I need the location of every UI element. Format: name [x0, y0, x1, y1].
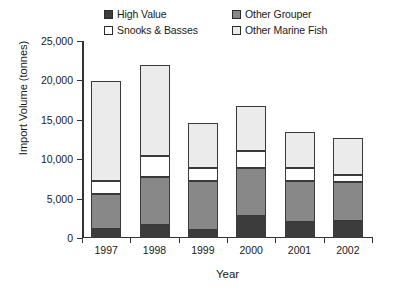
x-tick-label: 1997: [82, 244, 130, 256]
bar-segment: [140, 225, 170, 238]
bar-stack: [333, 41, 363, 238]
y-axis-title: Import Volume (tonnes): [17, 13, 29, 183]
y-tick-mark: [77, 159, 82, 160]
x-tick-label: 2001: [276, 244, 324, 256]
bar-segment: [140, 156, 170, 177]
x-axis-title: Year: [82, 268, 373, 280]
bar-segment: [285, 168, 315, 181]
y-tick-label: 5,000: [17, 194, 73, 204]
legend-swatch-high-value: [104, 10, 113, 19]
x-tick-mark: [130, 238, 131, 243]
bar-segment: [236, 106, 266, 152]
legend-item-high-value: High Value: [104, 8, 232, 20]
plot-area: 05,00010,00015,00020,00025,000 199719981…: [82, 41, 372, 238]
bar-stack: [91, 41, 121, 238]
bar-segment: [91, 194, 121, 230]
bar-stack: [236, 41, 266, 238]
legend-item-other-grouper: Other Grouper: [232, 8, 372, 20]
bar-segment: [236, 216, 266, 238]
x-tick-mark: [324, 238, 325, 243]
bar-segment: [188, 230, 218, 238]
legend-label-snooks-basses: Snooks & Basses: [117, 24, 198, 36]
x-tick-mark: [227, 238, 228, 243]
bar-segment: [285, 181, 315, 222]
x-tick-mark: [179, 238, 180, 243]
bar-segment: [333, 182, 363, 221]
y-tick-mark: [77, 199, 82, 200]
bar-segment: [236, 151, 266, 168]
chart-container: High Value Other Grouper Snooks & Basses…: [0, 0, 402, 300]
x-tick-mark: [372, 238, 373, 243]
bar-segment: [91, 229, 121, 238]
legend-label-other-marine-fish: Other Marine Fish: [245, 24, 327, 36]
bar-stack: [140, 41, 170, 238]
x-tick-label: 1999: [179, 244, 227, 256]
legend-item-other-marine-fish: Other Marine Fish: [232, 24, 372, 36]
bar-segment: [140, 177, 170, 225]
bar-stack: [188, 41, 218, 238]
bar-segment: [285, 132, 315, 168]
x-tick-mark-origin: [82, 238, 83, 243]
bar-segment: [140, 65, 170, 156]
legend-swatch-other-grouper: [232, 10, 241, 19]
bar-segment: [188, 123, 218, 168]
y-tick-mark: [77, 120, 82, 121]
bar-segment: [91, 181, 121, 194]
bar-segment: [236, 168, 266, 216]
bar-segment: [333, 221, 363, 238]
legend-swatch-other-marine-fish: [232, 26, 241, 35]
y-tick-mark: [77, 80, 82, 81]
y-tick-label: 0: [17, 233, 73, 243]
legend-label-high-value: High Value: [117, 8, 167, 20]
legend-label-other-grouper: Other Grouper: [245, 8, 311, 20]
chart-legend: High Value Other Grouper Snooks & Basses…: [104, 6, 372, 38]
y-tick-mark: [77, 41, 82, 42]
legend-item-snooks-basses: Snooks & Basses: [104, 24, 232, 36]
x-tick-label: 2002: [324, 244, 372, 256]
bar-stack: [285, 41, 315, 238]
bar-segment: [188, 168, 218, 181]
bar-segment: [285, 222, 315, 238]
bar-segment: [333, 138, 363, 175]
bar-segment: [91, 81, 121, 181]
x-tick-label: 2000: [227, 244, 275, 256]
bar-segment: [333, 175, 363, 182]
legend-swatch-snooks-basses: [104, 26, 113, 35]
x-tick-label: 1998: [131, 244, 179, 256]
x-tick-mark: [275, 238, 276, 243]
bar-segment: [188, 181, 218, 230]
